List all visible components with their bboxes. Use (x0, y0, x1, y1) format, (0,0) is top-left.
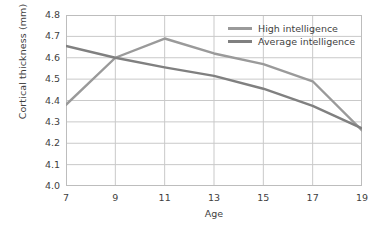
y-axis-tick-label: 4.4 (28, 96, 60, 106)
y-axis-tick-label: 4.8 (28, 10, 60, 20)
x-axis-tick-label: 9 (101, 193, 129, 203)
legend-label: Average intelligence (258, 36, 355, 47)
y-axis-tick-label: 4.6 (28, 53, 60, 63)
legend-color-swatch (228, 40, 252, 43)
y-axis-tick-label: 4.7 (28, 31, 60, 41)
legend-item[interactable]: High intelligence (228, 22, 362, 35)
legend-color-swatch (228, 27, 252, 30)
x-axis-tick-label: 11 (151, 193, 179, 203)
x-axis-tick-label: 7 (52, 193, 80, 203)
y-axis-tick-label: 4.5 (28, 74, 60, 84)
x-axis-tick-label: 13 (200, 193, 228, 203)
x-axis-tick-label: 15 (249, 193, 277, 203)
y-axis-tick-label: 4.3 (28, 117, 60, 127)
x-axis-title: Age (66, 208, 362, 219)
y-axis-tick-label: 4.2 (28, 138, 60, 148)
y-axis-tick-label: 4.0 (28, 181, 60, 191)
y-axis-title: Cortical thickness (mm) (17, 0, 28, 142)
legend-label: High intelligence (258, 23, 338, 34)
x-axis-tick-label: 19 (348, 193, 376, 203)
legend-item[interactable]: Average intelligence (228, 35, 362, 48)
line-chart: Cortical thickness (mm) 4.04.14.24.34.44… (0, 0, 377, 232)
chart-legend: High intelligenceAverage intelligence (228, 22, 362, 48)
y-axis-tick-label: 4.1 (28, 160, 60, 170)
x-axis-tick-label: 17 (299, 193, 327, 203)
